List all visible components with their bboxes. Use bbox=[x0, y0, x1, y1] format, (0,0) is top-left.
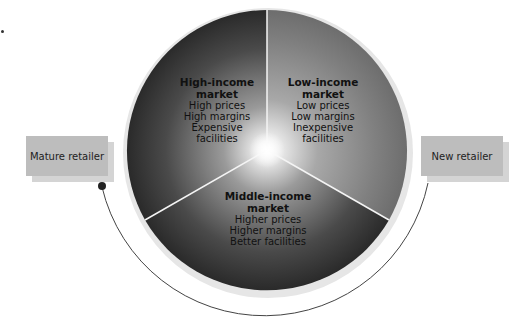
mature-retailer-box: Mature retailer bbox=[26, 136, 108, 176]
new-retailer-label: New retailer bbox=[432, 151, 493, 162]
stray-mark bbox=[1, 30, 4, 33]
label-low-income: Low-income market Low prices Low margins… bbox=[278, 76, 368, 144]
new-retailer-box: New retailer bbox=[421, 136, 503, 176]
label-high-income: High-income market High prices High marg… bbox=[172, 76, 262, 144]
mature-retailer-label: Mature retailer bbox=[30, 151, 104, 162]
label-middle-income: Middle-income market Higher prices Highe… bbox=[215, 190, 321, 247]
arc-start-dot bbox=[98, 182, 106, 190]
